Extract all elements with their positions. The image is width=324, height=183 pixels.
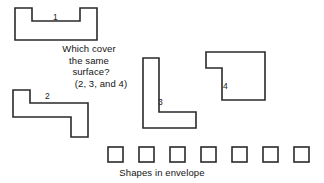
envelope-square[interactable] — [201, 147, 216, 162]
question-answer: (2, 3, and 4) — [36, 78, 142, 90]
envelope-square[interactable] — [294, 147, 309, 162]
question-line-3: surface? — [36, 66, 142, 78]
shape-2-label: 2 — [45, 92, 50, 101]
envelope-square[interactable] — [139, 147, 154, 162]
shape-1-label: 1 — [53, 13, 58, 22]
envelope-square[interactable] — [263, 147, 278, 162]
worksheet-canvas: 1 2 3 4 Which cover the same surface? (2… — [0, 0, 324, 183]
shape-3-label: 3 — [158, 98, 163, 107]
shape-4-polygon — [206, 52, 265, 100]
shape-4-label: 4 — [223, 82, 228, 91]
shape-2-polygon — [13, 90, 88, 137]
question-line-2: the same — [36, 55, 142, 67]
question-line-1: Which cover — [36, 43, 142, 55]
question-text-block: Which cover the same surface? (2, 3, and… — [36, 43, 142, 89]
shape-3-polygon — [143, 58, 196, 128]
envelope-square[interactable] — [232, 147, 247, 162]
envelope-square[interactable] — [170, 147, 185, 162]
envelope-caption: Shapes in envelope — [0, 167, 324, 178]
envelope-square[interactable] — [108, 147, 123, 162]
